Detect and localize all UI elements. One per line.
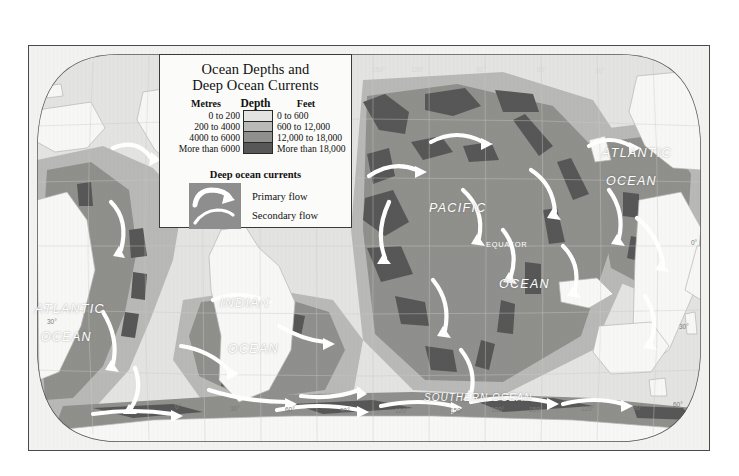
- current-arrow-swatch: [189, 183, 241, 229]
- latitude-label-left-30: 30°: [47, 318, 57, 325]
- legend-title: Ocean Depths and Deep Ocean Currents: [160, 61, 351, 93]
- map-frame: ATLANTIC OCEAN ATLANTIC OCEAN INDIAN OCE…: [28, 45, 710, 451]
- legend-feet-value-0: 0 to 600: [277, 110, 353, 121]
- legend-metres-value-0: 0 to 200: [160, 110, 240, 121]
- legend-secondary-flow-label: Secondary flow: [252, 210, 318, 221]
- longitude-label-top-3: 90°: [476, 66, 486, 73]
- legend-currents-sample: Primary flow Secondary flow: [160, 183, 351, 233]
- legend-swatch-2: [244, 132, 272, 143]
- legend-depth-scale: Metres Feet 0 to 200 200 to 4000 4000 to…: [160, 98, 351, 156]
- legend-swatch-3: [244, 143, 272, 154]
- legend-feet-values: 0 to 600 600 to 12,000 12,000 to 18,000 …: [277, 110, 353, 154]
- longitude-label-bottom-3: 90°: [340, 407, 350, 414]
- legend-feet-value-2: 12,000 to 18,000: [277, 132, 353, 143]
- longitude-label-top-2: 120°: [411, 66, 424, 73]
- secondary-flow-arrow-icon: [195, 210, 233, 223]
- longitude-label-bottom-4: 120°: [395, 407, 408, 414]
- latitude-label-right-30: 30°: [679, 323, 689, 330]
- longitude-label-bottom-0: 0°: [175, 403, 181, 410]
- legend-swatch-column: [243, 110, 273, 154]
- legend-metres-value-3: More than 6000: [160, 143, 240, 154]
- legend-title-line1: Ocean Depths and: [202, 61, 310, 77]
- legend-swatch-0: [244, 111, 272, 122]
- longitude-label-bottom-1: 30°: [230, 405, 240, 412]
- longitude-label-bottom-9: 90°: [633, 404, 643, 411]
- longitude-label-top-5: 30°: [595, 67, 605, 74]
- legend-feet-value-1: 600 to 12,000: [277, 121, 353, 132]
- longitude-label-bottom-5: 150°: [450, 407, 463, 414]
- longitude-label-bottom-7: 150°: [529, 406, 542, 413]
- legend-swatch-1: [244, 122, 272, 133]
- map-legend: Ocean Depths and Deep Ocean Currents Dep…: [159, 54, 352, 228]
- legend-primary-flow-label: Primary flow: [252, 191, 308, 202]
- legend-metres-value-1: 200 to 4000: [160, 121, 240, 132]
- legend-currents-heading: Deep ocean currents: [160, 169, 351, 180]
- world-map-graphic: [33, 50, 705, 446]
- legend-feet-heading: Feet: [278, 98, 334, 109]
- latitude-label-right-0: 0°: [691, 239, 697, 246]
- longitude-label-top-4: 60°: [537, 66, 547, 73]
- longitude-label-bottom-8: 120°: [581, 405, 594, 412]
- legend-metres-heading: Metres: [172, 98, 240, 109]
- legend-feet-value-3: More than 18,000: [277, 143, 353, 154]
- longitude-label-bottom-10: 60°: [673, 401, 683, 408]
- equator-label: EQUATOR: [486, 240, 527, 249]
- legend-metres-value-2: 4000 to 6000: [160, 132, 240, 143]
- longitude-label-bottom-6: 180°: [491, 406, 504, 413]
- map-page: ATLANTIC OCEAN ATLANTIC OCEAN INDIAN OCE…: [0, 0, 739, 476]
- longitude-label-top-1: 150°: [372, 66, 385, 73]
- longitude-label-bottom-2: 60°: [285, 406, 295, 413]
- primary-flow-arrow-icon: [195, 190, 235, 205]
- legend-title-line2: Deep Ocean Currents: [160, 77, 351, 93]
- legend-metres-values: 0 to 200 200 to 4000 4000 to 6000 More t…: [160, 110, 240, 154]
